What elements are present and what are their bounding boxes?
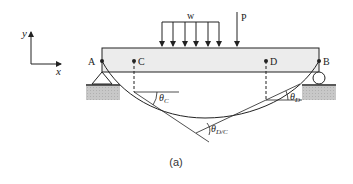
coordinate-axes: y x xyxy=(21,27,61,77)
angle-arc-dc xyxy=(207,123,210,135)
tangent-line-c xyxy=(134,92,209,142)
roller-support xyxy=(302,72,336,100)
point-a xyxy=(100,59,104,63)
point-b xyxy=(317,59,321,63)
theta-c-label: θC xyxy=(159,92,169,105)
label-d: D xyxy=(270,56,277,67)
label-a: A xyxy=(88,56,96,67)
point-c xyxy=(132,59,136,63)
roller xyxy=(313,72,325,84)
y-axis-label: y xyxy=(21,27,27,39)
ground-hatch xyxy=(86,86,120,100)
ground-hatch xyxy=(302,86,336,100)
x-axis-label: x xyxy=(55,65,61,77)
point-load: P xyxy=(237,12,247,46)
angle-arc-c xyxy=(153,92,157,105)
beam-deflection-diagram: y x w P xyxy=(0,0,353,184)
point-d xyxy=(264,59,268,63)
label-b: B xyxy=(323,56,330,67)
theta-dc-label: θD/C xyxy=(211,123,228,136)
distributed-load-label: w xyxy=(187,10,195,21)
figure-caption: (a) xyxy=(169,156,182,168)
label-c: C xyxy=(138,56,145,67)
pin-support xyxy=(86,72,120,100)
tangent-line-d xyxy=(196,100,266,133)
pin-triangle xyxy=(92,72,112,84)
distributed-load: w xyxy=(162,10,219,46)
point-load-label: P xyxy=(241,12,247,23)
theta-d-label: θD xyxy=(290,91,300,104)
